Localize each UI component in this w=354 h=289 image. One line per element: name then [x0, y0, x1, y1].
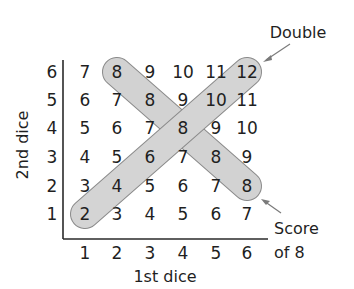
- grid-cell: 9: [211, 118, 222, 138]
- grid-cell: 7: [145, 118, 156, 138]
- grid-cell: 9: [178, 90, 189, 110]
- grid-cell: 4: [112, 176, 123, 196]
- grid-cell: 10: [172, 62, 194, 82]
- grid-cell: 6: [80, 90, 91, 110]
- grid-cell: 6: [178, 176, 189, 196]
- grid-cell: 6: [145, 147, 156, 167]
- grid-cell: 12: [236, 62, 258, 82]
- x-tick-label: 4: [178, 243, 189, 263]
- dice-sum-diagram: 7891011126789101156789104567893456782345…: [0, 0, 354, 289]
- x-tick-label: 5: [211, 243, 222, 263]
- y-tick-label: 6: [47, 62, 58, 82]
- grid-cell: 9: [242, 147, 253, 167]
- grid-cell: 7: [211, 176, 222, 196]
- grid-cell: 5: [178, 204, 189, 224]
- grid-cell: 7: [112, 90, 123, 110]
- grid-cell: 11: [205, 62, 227, 82]
- grid-cell: 8: [242, 176, 253, 196]
- score-arrow: [261, 199, 281, 213]
- grid-cell: 8: [178, 118, 189, 138]
- y-tick-label: 2: [47, 176, 58, 196]
- x-tick-label: 2: [112, 243, 123, 263]
- grid-cell: 9: [145, 62, 156, 82]
- x-tick-labels: 123456: [80, 243, 253, 263]
- grid-cell: 8: [211, 147, 222, 167]
- y-tick-label: 4: [47, 118, 58, 138]
- grid-cell: 6: [112, 118, 123, 138]
- score-label-line1: Score: [274, 219, 319, 238]
- double-label: Double: [270, 23, 327, 42]
- grid-cell: 2: [80, 204, 91, 224]
- grid-cell: 5: [80, 118, 91, 138]
- grid-cell: 10: [205, 90, 227, 110]
- grid-cell: 7: [178, 147, 189, 167]
- grid-cell: 3: [112, 204, 123, 224]
- grid-cell: 10: [236, 118, 258, 138]
- y-axis-title: 2nd dice: [13, 111, 32, 180]
- grid-cell: 3: [80, 176, 91, 196]
- grid-cell: 5: [112, 147, 123, 167]
- grid-cell: 8: [112, 62, 123, 82]
- double-arrow: [263, 44, 290, 62]
- grid-cell: 4: [80, 147, 91, 167]
- grid-cell: 6: [211, 204, 222, 224]
- grid-cell: 4: [145, 204, 156, 224]
- grid-cell: 11: [236, 90, 258, 110]
- x-tick-label: 6: [242, 243, 253, 263]
- grid-cell: 7: [242, 204, 253, 224]
- grid-cell: 8: [145, 90, 156, 110]
- x-tick-label: 1: [80, 243, 91, 263]
- y-tick-label: 1: [47, 204, 58, 224]
- y-tick-label: 5: [47, 90, 58, 110]
- y-tick-label: 3: [47, 147, 58, 167]
- y-tick-labels: 654321: [47, 62, 58, 224]
- x-axis-title: 1st dice: [133, 267, 196, 286]
- x-tick-label: 3: [145, 243, 156, 263]
- grid-cell: 7: [80, 62, 91, 82]
- score-label-line2: of 8: [274, 243, 305, 262]
- grid-cell: 5: [145, 176, 156, 196]
